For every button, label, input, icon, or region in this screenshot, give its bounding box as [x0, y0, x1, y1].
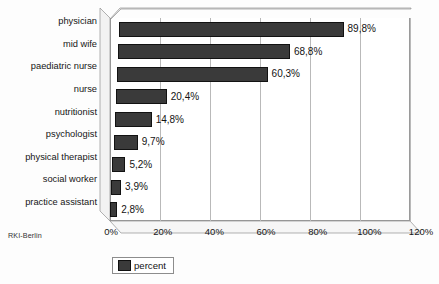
bar-value-label: 3,9%	[125, 181, 148, 192]
bar-value-label: 2,8%	[121, 204, 144, 215]
category-label: physical therapist	[0, 152, 97, 162]
x-tick-label: 120%	[409, 226, 433, 237]
bar-value-label: 89,8%	[348, 23, 376, 34]
category-label: psychologist	[0, 129, 97, 139]
legend-swatch-percent	[118, 260, 131, 271]
category-label: social worker	[0, 174, 97, 184]
bar-value-label: 14,8%	[156, 114, 184, 125]
bar-chart: physicianmid wifepaediatric nursenursenu…	[0, 0, 439, 284]
category-label: mid wife	[0, 39, 97, 49]
x-tick-label: 100%	[357, 226, 381, 237]
x-tick-label: 80%	[308, 226, 327, 237]
category-label: practice assistant	[0, 197, 97, 207]
bar-value-label: 20,4%	[171, 91, 199, 102]
category-label: paediatric nurse	[0, 61, 97, 71]
category-label: physician	[0, 16, 97, 26]
x-tick-label: 60%	[256, 226, 275, 237]
source-label: RKI-Berlin	[8, 231, 42, 240]
x-axis: 0%20%40%60%80%100%120%	[0, 226, 439, 240]
bar-value-label: 9,7%	[142, 136, 165, 147]
x-tick-label: 0%	[104, 226, 118, 237]
category-label: nurse	[0, 84, 97, 94]
legend-label-percent: percent	[134, 261, 166, 271]
category-label: nutritionist	[0, 107, 97, 117]
x-tick-label: 40%	[205, 226, 224, 237]
bar-value-label: 60,3%	[272, 68, 300, 79]
bar-value-label: 5,2%	[129, 159, 152, 170]
legend: percent	[112, 257, 174, 274]
bar-value-labels: 89,8%68,8%60,3%20,4%14,8%9,7%5,2%3,9%2,8…	[110, 18, 439, 221]
x-tick-label: 20%	[153, 226, 172, 237]
category-axis: physicianmid wifepaediatric nursenursenu…	[0, 14, 101, 220]
bar-value-label: 68,8%	[294, 46, 322, 57]
